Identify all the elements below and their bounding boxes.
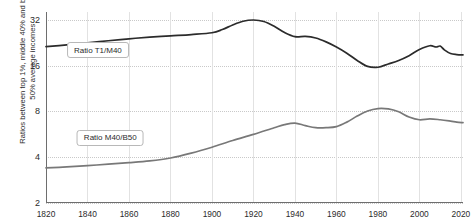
x-tick-label: 1820 <box>37 209 56 219</box>
x-tick-label: 1840 <box>78 209 97 219</box>
y-tick-label: 8 <box>35 106 40 116</box>
x-tick-label: 1960 <box>327 209 346 219</box>
series-label: Ratio M40/B50 <box>77 130 144 146</box>
x-tick-label: 1920 <box>244 209 263 219</box>
y-tick-label: 4 <box>35 152 40 162</box>
gridline-y-2 <box>46 203 463 204</box>
x-tick-label: 1940 <box>286 209 305 219</box>
plot-area: 2481632 18201840186018801900192019401960… <box>46 12 463 203</box>
x-tick-label: 1980 <box>369 209 388 219</box>
x-tick-label: 1880 <box>161 209 180 219</box>
x-tick-label: 1900 <box>203 209 222 219</box>
x-tick-label: 2000 <box>410 209 429 219</box>
y-tick-label: 2 <box>35 198 40 208</box>
y-tick-label: 16 <box>30 61 40 71</box>
series-lines <box>46 12 463 203</box>
x-tick-label: 1860 <box>120 209 139 219</box>
x-tick-label: 2020 <box>452 209 471 219</box>
ratio-line-chart: Ratios between top 1%, middle 40% and bo… <box>0 0 471 224</box>
series-label: Ratio T1/M40 <box>67 42 129 58</box>
y-tick-label: 32 <box>30 15 40 25</box>
